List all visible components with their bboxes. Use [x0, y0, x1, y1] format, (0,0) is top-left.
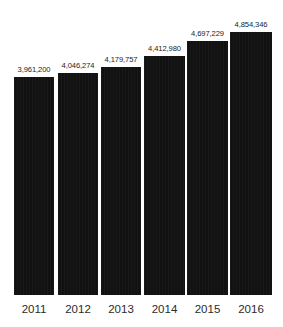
bar-group[interactable]: 4,046,274 — [58, 73, 98, 295]
axis-label-2013: 2013 — [101, 302, 141, 316]
bar-group[interactable]: 3,961,200 — [14, 77, 54, 295]
category-axis: 2011 2012 2013 2014 2015 2016 — [0, 295, 283, 327]
bar-rect[interactable] — [101, 67, 141, 295]
bar-rect[interactable] — [230, 32, 272, 295]
axis-label-2014: 2014 — [144, 302, 185, 316]
bar-rect[interactable] — [144, 56, 185, 295]
bar-group[interactable]: 4,697,229 — [187, 41, 228, 295]
bar-value-label: 3,961,200 — [18, 65, 51, 74]
bar-chart: 3,961,200 4,046,274 4,179,757 4,412,980 … — [0, 0, 283, 327]
plot-area: 3,961,200 4,046,274 4,179,757 4,412,980 … — [0, 0, 283, 295]
bar-value-label: 4,412,980 — [148, 44, 181, 53]
bar-rect[interactable] — [187, 41, 228, 295]
bar-value-label: 4,697,229 — [191, 29, 224, 38]
bar-value-label: 4,179,757 — [105, 55, 138, 64]
axis-label-2011: 2011 — [14, 302, 54, 316]
bar-value-label: 4,854,346 — [235, 20, 268, 29]
bar-rect[interactable] — [14, 77, 54, 295]
axis-label-2016: 2016 — [230, 302, 272, 316]
bar-group[interactable]: 4,179,757 — [101, 67, 141, 295]
bar-group[interactable]: 4,412,980 — [144, 56, 185, 295]
bar-value-label: 4,046,274 — [62, 61, 95, 70]
bar-rect[interactable] — [58, 73, 98, 295]
axis-label-2015: 2015 — [187, 302, 228, 316]
bar-group[interactable]: 4,854,346 — [230, 32, 272, 295]
axis-label-2012: 2012 — [58, 302, 98, 316]
